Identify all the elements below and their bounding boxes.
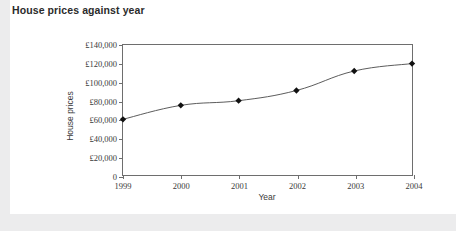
x-tick-label: 2004 bbox=[406, 181, 423, 191]
y-tick-label: £40,000 bbox=[89, 134, 117, 144]
x-tick-label: 2001 bbox=[231, 181, 248, 191]
data-point-marker bbox=[293, 87, 299, 93]
y-tick-label: £140,000 bbox=[85, 40, 117, 50]
x-tick-mark bbox=[356, 175, 357, 179]
screenshot-root: House prices against year House prices Y… bbox=[0, 0, 456, 231]
chart-container: House prices Year 0£20,000£40,000£60,000… bbox=[22, 22, 440, 210]
y-tick-label: £100,000 bbox=[85, 78, 117, 88]
x-axis-title: Year bbox=[258, 192, 275, 202]
data-point-marker bbox=[120, 116, 126, 122]
x-tick-label: 2003 bbox=[347, 181, 364, 191]
page-title: House prices against year bbox=[12, 4, 145, 16]
series-line bbox=[123, 64, 412, 120]
series-markers bbox=[120, 60, 415, 122]
x-tick-mark bbox=[123, 175, 124, 179]
series-layer bbox=[123, 45, 412, 175]
y-tick-label: £60,000 bbox=[89, 115, 117, 125]
x-tick-mark bbox=[181, 175, 182, 179]
data-point-marker bbox=[235, 98, 241, 104]
x-tick-label: 1999 bbox=[115, 181, 132, 191]
y-tick-label: £120,000 bbox=[85, 59, 117, 69]
plot-wrapper: House prices Year 0£20,000£40,000£60,000… bbox=[22, 22, 440, 210]
data-point-marker bbox=[351, 68, 357, 74]
plot-area: 0£20,000£40,000£60,000£80,000£100,000£12… bbox=[122, 44, 413, 176]
y-axis-title: House prices bbox=[65, 91, 75, 141]
data-point-marker bbox=[409, 60, 415, 66]
y-tick-label: £80,000 bbox=[89, 97, 117, 107]
x-tick-mark bbox=[298, 175, 299, 179]
data-point-marker bbox=[178, 102, 184, 108]
x-tick-mark bbox=[239, 175, 240, 179]
x-tick-label: 2000 bbox=[173, 181, 190, 191]
y-tick-label: £20,000 bbox=[89, 153, 117, 163]
x-tick-mark bbox=[414, 175, 415, 179]
x-tick-label: 2002 bbox=[289, 181, 306, 191]
